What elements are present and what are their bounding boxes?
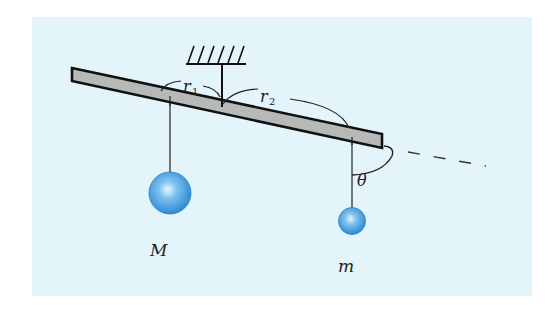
mass-M-sphere bbox=[149, 172, 191, 214]
label-theta: θ bbox=[357, 171, 367, 190]
label-r2: r bbox=[260, 87, 269, 106]
lever-diagram: r 1 r 2 θ M m bbox=[0, 0, 556, 317]
label-r2-sub: 2 bbox=[269, 96, 275, 107]
label-r1-sub: 1 bbox=[192, 86, 198, 97]
label-M: M bbox=[149, 240, 168, 260]
lever-bar bbox=[72, 68, 382, 148]
label-m: m bbox=[338, 256, 354, 276]
ceiling-support bbox=[186, 46, 246, 64]
label-r1: r bbox=[183, 77, 192, 96]
bar-extension-dashed-line bbox=[408, 152, 486, 166]
mass-m-sphere bbox=[339, 208, 366, 235]
